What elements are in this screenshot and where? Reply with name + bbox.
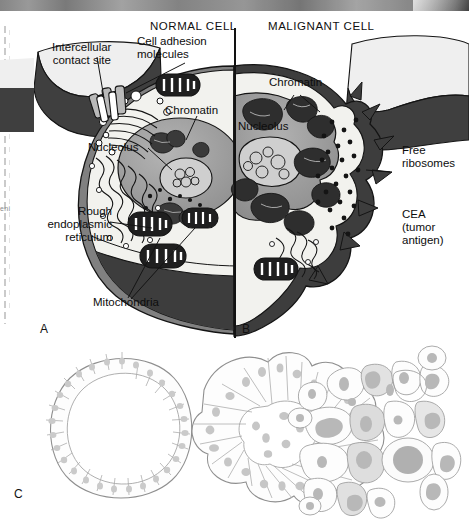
label-chromatin-normal: Chromatin	[165, 104, 218, 117]
label-free-ribosomes: Free ribosomes	[402, 144, 455, 170]
label-chromatin-malignant: Chromatin	[269, 76, 322, 89]
panel-c-tissue-progression	[0, 340, 469, 520]
header-malignant-cell: MALIGNANT CELL	[268, 20, 375, 32]
panel-label-a: A	[40, 322, 48, 336]
figure-canvas: eni	[0, 0, 469, 520]
tissue-normal-epithelium	[46, 352, 192, 498]
label-nucleolus-normal: Nucleolus	[88, 141, 139, 154]
label-cea-tumor-antigen: CEA (tumor antigen)	[402, 208, 444, 248]
header-normal-cell: NORMAL CELL	[150, 20, 237, 32]
panel-divider-line	[234, 28, 236, 338]
normal-nucleolus	[160, 158, 212, 198]
label-mitochondria: Mitochondria	[93, 296, 159, 309]
label-nucleolus-malignant: Nucleolus	[238, 120, 289, 133]
label-rough-endoplasmic-reticulum: Rough endoplasmic reticulum	[36, 205, 112, 245]
mitochondria-malignant	[254, 258, 298, 280]
label-cell-adhesion-molecules: Cell adhesion molecules	[137, 35, 207, 61]
label-intercellular-contact-site: Intercellular contact site	[52, 41, 111, 67]
panel-label-b: B	[242, 322, 250, 336]
